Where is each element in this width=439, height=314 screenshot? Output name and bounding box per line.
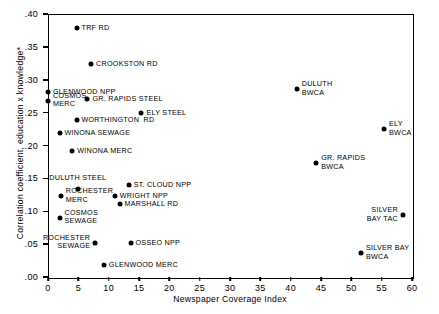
x-tick-mark [169, 277, 171, 281]
x-tick-label: 50 [346, 283, 357, 293]
y-axis-title-wrapper: Correlation coefficient, education x kno… [0, 0, 14, 314]
data-point[interactable] [359, 251, 364, 256]
x-tick-label: 45 [316, 283, 327, 293]
data-point[interactable] [46, 90, 51, 95]
data-point-label: TRF RD [82, 24, 110, 33]
data-point-label: WORTHINGTON RD [82, 116, 155, 125]
x-tick-mark [290, 277, 292, 281]
data-point-label: CROOKSTON RD [96, 60, 158, 69]
x-tick-label: 10 [103, 283, 114, 293]
y-tick-label: .30 [25, 75, 38, 85]
x-tick-mark [411, 277, 413, 281]
x-tick-mark [138, 277, 140, 281]
data-point[interactable] [294, 86, 299, 91]
x-tick-mark [199, 277, 201, 281]
data-point-label: DULUTH STEEL [49, 174, 106, 183]
x-tick-label: 20 [164, 283, 175, 293]
x-tick-label: 15 [134, 283, 145, 293]
y-tick-label: .10 [25, 206, 38, 216]
data-point-label: WINONA SEWAGE [65, 129, 131, 138]
x-tick-mark [381, 277, 383, 281]
data-point-label: GLENWOOD MERC [109, 261, 178, 270]
data-point-label: OSSEO NPP [136, 239, 181, 248]
data-point[interactable] [128, 240, 133, 245]
data-point-label: ROCHESTER SEWAGE [43, 234, 90, 251]
data-point[interactable] [93, 240, 98, 245]
data-point-label: MARSHALL RD [125, 200, 179, 209]
x-tick-label: 60 [407, 283, 418, 293]
x-tick-label: 0 [45, 283, 50, 293]
x-tick-mark [47, 277, 49, 281]
y-tick-label: .00 [25, 272, 38, 282]
y-tick-label: .15 [25, 173, 38, 183]
x-tick-mark [229, 277, 231, 281]
data-point[interactable] [400, 213, 405, 218]
x-tick-mark [320, 277, 322, 281]
y-tick-label: .20 [25, 141, 38, 151]
x-tick-mark [351, 277, 353, 281]
data-point[interactable] [85, 96, 90, 101]
data-point[interactable] [89, 61, 94, 66]
data-point-label: GR. RAPIDS STEEL [92, 95, 162, 104]
data-point[interactable] [314, 161, 319, 166]
data-point[interactable] [101, 263, 106, 268]
data-point-label: COSMOS SEWAGE [65, 209, 98, 226]
data-point[interactable] [46, 98, 51, 103]
data-point[interactable] [112, 194, 117, 199]
x-tick-label: 30 [225, 283, 236, 293]
data-point-label: ELY BWCA [389, 120, 412, 137]
data-point-label: ROCHESTER MERC [66, 188, 113, 205]
y-axis-title: Correlation coefficient, education x kno… [15, 3, 25, 283]
x-tick-mark [260, 277, 262, 281]
x-tick-label: 55 [376, 283, 387, 293]
y-tick-label: .35 [25, 42, 38, 52]
y-tick-label: .40 [25, 9, 38, 19]
scatter-plot-figure: .00.05.10.15.20.25.30.35.40 051015202530… [0, 0, 439, 314]
data-point[interactable] [57, 215, 62, 220]
data-point[interactable] [74, 117, 79, 122]
data-point-label: SILVER BAY TAC [367, 207, 398, 224]
data-point[interactable] [58, 194, 63, 199]
data-point-label: DULUTH BWCA [302, 80, 333, 97]
data-point[interactable] [117, 202, 122, 207]
data-point[interactable] [57, 131, 62, 136]
x-tick-mark [78, 277, 80, 281]
data-point-label: SILVER BAY BWCA [366, 245, 409, 262]
data-point-label: COSMOS MERC [53, 92, 86, 109]
x-axis-title: Newspaper Coverage Index [48, 294, 412, 304]
y-tick-label: .25 [25, 108, 38, 118]
data-point-label: WINONA MERC [77, 146, 132, 155]
x-tick-label: 35 [255, 283, 266, 293]
data-point[interactable] [74, 26, 79, 31]
data-point[interactable] [382, 127, 387, 132]
y-tick-label: .05 [25, 239, 38, 249]
x-tick-label: 25 [194, 283, 205, 293]
data-point-label: ST. CLOUD NPP [134, 181, 192, 190]
data-point[interactable] [126, 182, 131, 187]
data-point[interactable] [70, 148, 75, 153]
data-point-label: GR. RAPIDS BWCA [321, 155, 365, 172]
plot-data-area: TRF RDCROOKSTON RDGLENWOOD NPPDULUTH BWC… [48, 14, 412, 277]
x-tick-label: 5 [76, 283, 81, 293]
x-tick-label: 40 [285, 283, 296, 293]
x-tick-mark [108, 277, 110, 281]
